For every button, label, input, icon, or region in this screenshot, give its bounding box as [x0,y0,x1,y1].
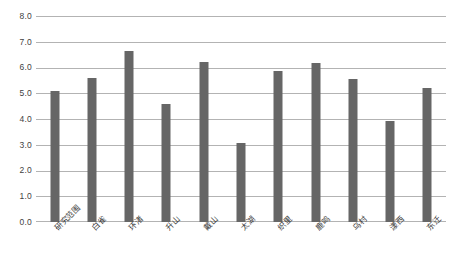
bar-研究范围[interactable] [50,91,59,222]
y-axis-tick-label: 8.0 [4,12,32,21]
x-axis-labels: 研究范围 白雀 环渚 升山 戴山 太湖 织里 鹿鸣 乌村 漾西 东迁 [36,224,446,280]
x-label-slot: 太湖 [222,224,259,280]
x-label-slot: 漾西 [371,224,408,280]
y-axis-tick-label: 2.0 [4,166,32,175]
bar-slot [297,16,334,222]
y-axis-tick-label: 0.0 [4,218,32,227]
bar-slot [111,16,148,222]
y-axis-tick-label: 5.0 [4,89,32,98]
x-label-slot: 东迁 [409,224,446,280]
y-axis-tick-label: 6.0 [4,63,32,72]
y-axis-tick-label: 1.0 [4,192,32,201]
x-label-slot: 戴山 [185,224,222,280]
bar-slot [185,16,222,222]
bar-东迁[interactable] [423,88,432,222]
bar-漾西[interactable] [386,121,395,222]
x-label-slot: 升山 [148,224,185,280]
x-label-slot: 织里 [260,224,297,280]
bar-slot [260,16,297,222]
bar-环渚[interactable] [125,51,134,222]
bar-织里[interactable] [274,71,283,222]
bar-chart: 8.0 7.0 6.0 5.0 4.0 3.0 2.0 1.0 0.0 [0,0,456,280]
bar-slot [73,16,110,222]
x-label-slot: 研究范围 [36,224,73,280]
bar-白雀[interactable] [87,78,96,222]
x-label-slot: 鹿鸣 [297,224,334,280]
y-axis-tick-label: 4.0 [4,115,32,124]
bar-slot [222,16,259,222]
bar-乌村[interactable] [348,79,357,222]
bar-戴山[interactable] [199,62,208,222]
y-axis-tick-label: 3.0 [4,141,32,150]
bar-slot [371,16,408,222]
bar-太湖[interactable] [236,143,245,222]
bar-slot [148,16,185,222]
x-label-slot: 环渚 [111,224,148,280]
bar-slot [409,16,446,222]
bar-鹿鸣[interactable] [311,63,320,222]
y-axis-tick-label: 7.0 [4,38,32,47]
bar-slot [334,16,371,222]
bar-slot [36,16,73,222]
bars-layer [36,16,446,222]
bar-升山[interactable] [162,104,171,222]
x-label-slot: 乌村 [334,224,371,280]
x-label-slot: 白雀 [73,224,110,280]
